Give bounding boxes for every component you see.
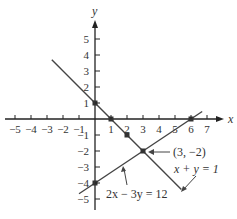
axes: xy — [5, 4, 234, 210]
x-tick-label: −3 — [41, 123, 53, 135]
equation-label-1: x + y = 1 — [173, 162, 219, 176]
y-tick-label: −3 — [77, 161, 89, 173]
x-tick-label: −2 — [57, 123, 69, 135]
y-axis-arrow-icon — [92, 20, 98, 28]
y-tick-label: −1 — [77, 129, 89, 141]
x-tick-label: 1 — [108, 123, 114, 135]
x-tick-label: 4 — [156, 123, 162, 135]
y-tick-label: −2 — [77, 145, 89, 157]
x-tick-label: 7 — [204, 123, 210, 135]
y-axis-label: y — [91, 4, 98, 18]
arrow-line — [124, 169, 127, 185]
x-tick-label: −4 — [25, 123, 37, 135]
arrow-head-icon — [121, 166, 126, 172]
x-tick-label: −5 — [9, 123, 21, 135]
y-tick-label: 4 — [84, 49, 90, 61]
equation-label-2: 2x − 3y = 12 — [106, 187, 168, 201]
x-tick-label: 3 — [140, 123, 146, 135]
line-1 — [52, 60, 182, 190]
x-axis-label: x — [227, 112, 234, 126]
y-tick-label: 3 — [84, 65, 90, 77]
y-tick-label: 2 — [84, 81, 90, 93]
y-tick-label: −4 — [77, 177, 89, 189]
y-tick-label: 1 — [84, 97, 90, 109]
x-tick-label: 6 — [188, 123, 194, 135]
data-point — [141, 149, 146, 154]
y-tick-label: 5 — [84, 33, 90, 45]
arrow-head-icon — [148, 149, 154, 155]
x-tick-label: 5 — [172, 123, 178, 135]
chart: xy −5−4−3−2−11234567−5−4−3−2−112345 (3, … — [0, 0, 237, 219]
plot-area: xy −5−4−3−2−11234567−5−4−3−2−112345 (3, … — [0, 0, 237, 219]
x-tick-label: 2 — [124, 123, 130, 135]
annotations: (3, −2)x + y = 12x − 3y = 12 — [106, 145, 219, 201]
y-tick-label: −5 — [77, 193, 89, 205]
x-axis-arrow-icon — [216, 116, 224, 122]
intersection-label: (3, −2) — [173, 145, 206, 159]
